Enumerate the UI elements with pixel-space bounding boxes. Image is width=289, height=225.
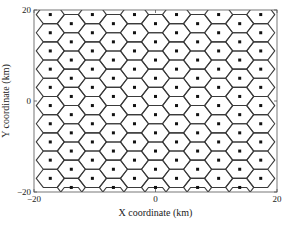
site-marker [217,159,220,162]
site-marker [175,140,178,143]
y-tick-label: 0 [27,96,32,106]
site-marker [91,31,94,34]
site-marker [70,22,73,25]
hexagon-cell-edge [57,0,85,5]
site-marker [91,68,94,71]
site-marker [112,22,115,25]
site-marker [49,122,52,125]
site-marker [133,13,136,16]
site-marker [175,68,178,71]
site-marker [238,77,241,80]
site-marker [238,131,241,134]
site-marker [49,49,52,52]
site-marker [70,59,73,62]
site-marker [238,113,241,116]
axis-ticks: −20020−20020 [17,5,282,204]
site-marker [259,159,262,162]
chart-canvas: −20020−20020 X coordinate (km) Y coordin… [0,0,289,225]
site-marker [49,31,52,34]
site-marker [196,22,199,25]
site-marker [196,113,199,116]
site-marker [238,95,241,98]
site-marker [196,95,199,98]
site-marker [217,68,220,71]
site-marker [133,86,136,89]
site-marker [91,159,94,162]
site-marker [196,77,199,80]
site-marker [238,168,241,171]
site-marker [70,40,73,43]
site-marker [217,49,220,52]
site-marker [196,168,199,171]
site-marker [259,177,262,180]
site-marker [49,104,52,107]
site-marker [112,40,115,43]
site-marker [259,104,262,107]
site-marker [154,59,157,62]
site-marker [91,122,94,125]
site-marker [259,122,262,125]
site-marker [49,86,52,89]
hexagon-cell-edge [0,33,22,51]
hexagon-cell-edge [184,0,212,5]
site-marker [175,49,178,52]
y-tick-label: 20 [22,5,32,15]
site-marker [133,140,136,143]
site-marker [217,104,220,107]
x-axis-label: X coordinate (km) [119,207,193,219]
site-marker [112,113,115,116]
site-marker [175,86,178,89]
site-marker [196,59,199,62]
site-marker [133,159,136,162]
site-marker [49,13,52,16]
site-marker [133,104,136,107]
hexagon-cell-edge [0,15,22,33]
site-marker [175,159,178,162]
site-marker [70,113,73,116]
hexagon-cell-edge [184,187,212,205]
site-marker [112,95,115,98]
site-marker [154,40,157,43]
site-marker [217,31,220,34]
site-marker [259,49,262,52]
site-marker [112,59,115,62]
site-marker [238,150,241,153]
site-marker [154,77,157,80]
y-axis-label: Y coordinate (km) [0,64,12,138]
site-marker [154,113,157,116]
site-marker [154,168,157,171]
site-marker [217,140,220,143]
site-marker [217,177,220,180]
site-marker [112,150,115,153]
site-marker [154,150,157,153]
site-marker [112,77,115,80]
hexagonal-cell-layout-chart: −20020−20020 X coordinate (km) Y coordin… [0,0,289,225]
site-marker [238,59,241,62]
site-marker [238,186,241,189]
site-marker [259,140,262,143]
hexagon-cell-edge [0,142,22,160]
site-marker [259,68,262,71]
hexagon-cell-edge [99,0,127,5]
site-marker [91,177,94,180]
hexagon-cell-edge [0,160,22,178]
hexagon-cell-edge [57,187,85,205]
site-marker [238,22,241,25]
site-marker [154,22,157,25]
site-marker [196,40,199,43]
site-marker [175,104,178,107]
y-tick-label: −20 [17,187,32,197]
site-marker [91,86,94,89]
site-marker [49,177,52,180]
site-marker [196,186,199,189]
site-marker [175,13,178,16]
site-marker [175,177,178,180]
site-marker [70,186,73,189]
site-marker [154,131,157,134]
x-tick-label: 20 [273,194,283,204]
hexagon-cell-edge [226,0,254,5]
site-marker [196,131,199,134]
site-marker [91,13,94,16]
x-tick-label: 0 [153,194,158,204]
site-marker [175,31,178,34]
